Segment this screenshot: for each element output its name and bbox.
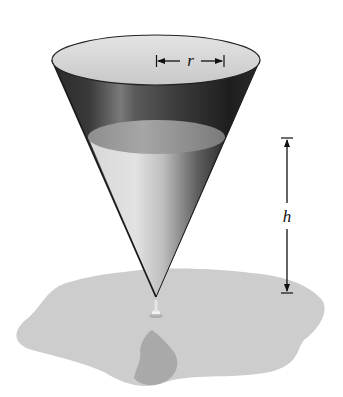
radius-label: r	[187, 51, 194, 70]
conical-tank-diagram: r h	[0, 0, 343, 397]
water-surface	[88, 120, 225, 154]
puddle	[16, 268, 324, 386]
height-annotation: h	[281, 138, 293, 293]
cone	[52, 35, 260, 297]
height-label: h	[283, 207, 292, 226]
